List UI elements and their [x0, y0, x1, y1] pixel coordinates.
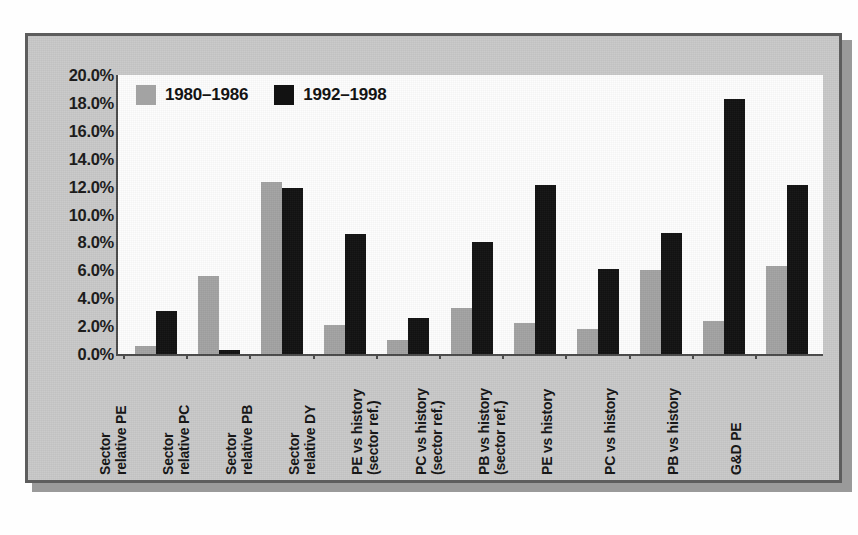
bar — [219, 350, 240, 354]
bar-group — [630, 75, 693, 354]
x-axis-tick-label-line: (sector ref.) — [366, 363, 382, 475]
x-axis-tick-label-line: (sector ref.) — [492, 363, 508, 475]
bar-group — [377, 75, 440, 354]
bar — [724, 99, 745, 354]
y-axis-tick-label: 6.0% — [78, 261, 114, 280]
x-axis-tick-label-line: Sector — [98, 363, 114, 475]
bar-series-container — [118, 75, 823, 354]
bar-group — [250, 75, 313, 354]
bar-group — [187, 75, 250, 354]
x-axis-tick-label-line: PE vs history — [540, 363, 556, 475]
y-axis-tick-label: 8.0% — [78, 233, 114, 252]
x-axis-tick-label: Sectorrelative PC — [161, 363, 192, 475]
bar — [135, 346, 156, 354]
x-axis: Sectorrelative PESectorrelative PCSector… — [116, 361, 821, 479]
x-axis-tick-mark — [249, 354, 251, 359]
bar — [640, 270, 661, 354]
bar — [198, 276, 219, 354]
bar — [661, 233, 682, 354]
y-axis-tick-label: 16.0% — [69, 121, 114, 140]
legend-label: 1992–1998 — [303, 85, 386, 105]
x-axis-tick-label-line: Sector — [161, 363, 177, 475]
x-axis-tick-label-line: PB vs history — [477, 363, 493, 475]
x-axis-tick-mark — [629, 354, 631, 359]
bar — [451, 308, 472, 354]
x-axis-tick-label: PE vs history(sector ref.) — [350, 363, 381, 475]
x-axis-tick-mark — [755, 354, 757, 359]
bar-group — [314, 75, 377, 354]
x-axis-tick-label: Sectorrelative DY — [287, 363, 318, 475]
legend-swatch-icon — [274, 85, 294, 105]
bar — [598, 269, 619, 354]
y-axis: 20.0%18.0%16.0%14.0%12.0%10.0%8.0%6.0%4.… — [36, 75, 114, 354]
legend-entry[interactable]: 1992–1998 — [274, 85, 386, 105]
bar — [345, 234, 366, 354]
x-axis-tick-label-line: PE vs history — [350, 363, 366, 475]
y-axis-tick-label: 14.0% — [69, 149, 114, 168]
legend-label: 1980–1986 — [165, 85, 248, 105]
x-axis-tick-label-line: Sector — [224, 363, 240, 475]
bar — [156, 311, 177, 354]
bar-chart-panel: 20.0%18.0%16.0%14.0%12.0%10.0%8.0%6.0%4.… — [25, 33, 842, 483]
x-axis-tick-mark — [439, 354, 441, 359]
bar — [261, 182, 282, 354]
x-axis-tick-label-line: relative DY — [303, 363, 319, 475]
bar — [787, 185, 808, 354]
x-axis-tick-mark — [692, 354, 694, 359]
legend-entry[interactable]: 1980–1986 — [136, 85, 248, 105]
bar-group — [503, 75, 566, 354]
bar — [535, 185, 556, 354]
x-axis-tick-label: PC vs history — [603, 363, 619, 475]
x-axis-tick-label-line: PC vs history — [603, 363, 619, 475]
x-axis-tick-mark — [123, 354, 125, 359]
bar-group — [440, 75, 503, 354]
plot-area: 1980–19861992–1998 — [116, 75, 823, 356]
y-axis-tick-label: 10.0% — [69, 205, 114, 224]
x-axis-tick-mark — [376, 354, 378, 359]
bar — [282, 188, 303, 354]
x-axis-tick-label: PC vs history(sector ref.) — [414, 363, 445, 475]
y-axis-tick-label: 12.0% — [69, 177, 114, 196]
legend-swatch-icon — [136, 85, 156, 105]
x-axis-tick-label-line: Sector — [287, 363, 303, 475]
bar-group — [693, 75, 756, 354]
x-axis-tick-label: Sectorrelative PE — [98, 363, 129, 475]
x-axis-tick-label-line: PC vs history — [414, 363, 430, 475]
x-axis-tick-label: Sectorrelative PB — [224, 363, 255, 475]
bar-group — [124, 75, 187, 354]
y-axis-tick-label: 20.0% — [69, 66, 114, 85]
x-axis-tick-label-line: PB vs history — [666, 363, 682, 475]
bar — [408, 318, 429, 354]
x-axis-tick-label: PB vs history — [666, 363, 682, 475]
y-axis-tick-label: 2.0% — [78, 317, 114, 336]
x-axis-tick-mark — [565, 354, 567, 359]
x-axis-label-cell: G&D PE — [754, 361, 817, 479]
x-axis-tick-label-line: G&D PE — [729, 363, 745, 475]
x-axis-tick-mark — [313, 354, 315, 359]
x-axis-tick-mark — [186, 354, 188, 359]
y-axis-tick-label: 4.0% — [78, 289, 114, 308]
x-axis-tick-label: PB vs history(sector ref.) — [477, 363, 508, 475]
scanned-page: 20.0%18.0%16.0%14.0%12.0%10.0%8.0%6.0%4.… — [0, 0, 858, 535]
x-axis-tick-label: G&D PE — [729, 363, 745, 475]
bar-group — [566, 75, 629, 354]
bar — [703, 321, 724, 354]
x-axis-tick-label-line: relative PC — [176, 363, 192, 475]
x-axis-tick-label: PE vs history — [540, 363, 556, 475]
bar — [387, 340, 408, 354]
x-axis-tick-mark — [502, 354, 504, 359]
bar-group — [756, 75, 819, 354]
y-axis-tick-label: 0.0% — [78, 345, 114, 364]
bar — [514, 323, 535, 354]
chart-legend: 1980–19861992–1998 — [136, 85, 387, 105]
bar — [472, 242, 493, 354]
y-axis-tick-label: 18.0% — [69, 93, 114, 112]
x-axis-tick-label-line: relative PE — [113, 363, 129, 475]
x-axis-tick-label-line: relative PB — [240, 363, 256, 475]
bar — [766, 266, 787, 354]
bar — [577, 329, 598, 354]
bar — [324, 325, 345, 354]
x-axis-tick-label-line: (sector ref.) — [429, 363, 445, 475]
